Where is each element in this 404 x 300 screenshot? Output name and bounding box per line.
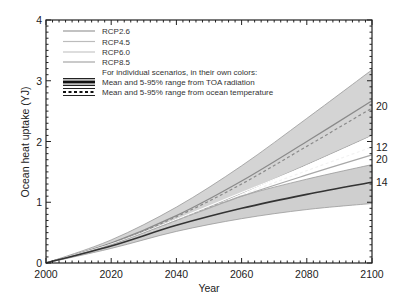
- end-label: 20: [376, 153, 388, 165]
- y-tick-label: 3: [36, 75, 42, 87]
- y-tick-label: 0: [36, 257, 42, 269]
- legend-item: Mean and 5-95% range from TOA radiation: [63, 78, 255, 87]
- legend-label: RCP4.5: [102, 38, 131, 47]
- x-tick-label: 2020: [100, 268, 124, 280]
- legend-label: Mean and 5-95% range from ocean temperat…: [102, 88, 274, 97]
- end-label: 20: [376, 100, 388, 112]
- legend-item: For individual scenarios, in their own c…: [102, 68, 257, 77]
- x-axis-title: Year: [198, 282, 220, 294]
- legend-item: RCP4.5: [63, 38, 131, 47]
- legend-label: RCP2.6: [102, 27, 131, 36]
- legend-label: RCP8.5: [102, 58, 131, 67]
- y-tick-label: 1: [36, 196, 42, 208]
- x-tick-label: 2000: [34, 268, 58, 280]
- legend: RCP2.6RCP4.5RCP6.0RCP8.5For individual s…: [63, 27, 274, 97]
- legend-item: RCP2.6: [63, 27, 131, 36]
- ocean-heat-uptake-chart: 200020202040206020802100 01234 Year Ocea…: [0, 0, 404, 300]
- y-tick-label: 2: [36, 136, 42, 148]
- band-0: [46, 70, 372, 263]
- x-tick-label: 2100: [360, 268, 384, 280]
- uncertainty-bands: [46, 70, 372, 263]
- x-tick-label: 2080: [295, 268, 319, 280]
- legend-item: RCP6.0: [63, 48, 131, 57]
- x-tick-label: 2060: [230, 268, 254, 280]
- end-label: 14: [376, 176, 388, 188]
- legend-item: Mean and 5-95% range from ocean temperat…: [63, 88, 274, 97]
- legend-label: For individual scenarios, in their own c…: [102, 68, 257, 77]
- y-axis-tick-labels: 01234: [36, 14, 42, 269]
- x-tick-label: 2040: [165, 268, 189, 280]
- y-tick-label: 4: [36, 14, 42, 26]
- legend-item: RCP8.5: [63, 58, 131, 67]
- legend-label: Mean and 5-95% range from TOA radiation: [102, 78, 255, 87]
- y-axis-title: Ocean heat uptake (YJ): [19, 87, 31, 198]
- end-labels: 20122014: [376, 100, 388, 188]
- x-axis-tick-labels: 200020202040206020802100: [34, 268, 384, 280]
- end-label: 12: [376, 141, 388, 153]
- legend-label: RCP6.0: [102, 48, 131, 57]
